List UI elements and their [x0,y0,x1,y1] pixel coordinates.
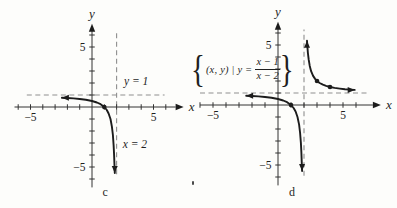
marked-point [315,79,320,84]
open-brace: { [191,50,205,87]
fraction: x − 1 x − 2 [255,56,279,81]
x-axis-arrow [176,104,184,110]
y-axis-arrow [89,24,95,32]
asymptote-annotation: y = 1 [123,75,148,88]
fraction-denominator: x − 2 [255,70,279,82]
y-axis-arrow [275,22,281,30]
x-tick-label: 5 [340,109,346,121]
set-condition-text: (x, y) | y = [206,64,252,75]
y-axis-label: y [273,4,281,19]
curve-right-branch [307,41,355,90]
curve-right-branch-start-arrow [304,41,310,48]
marked-point [102,105,107,110]
x-tick-label: −5 [207,109,219,121]
rational-function-graphs: −555−5xyy = 1x = 2c−555−5xyd [0,0,397,208]
stray-ink-mark [192,181,194,185]
graph-caption: d [289,185,295,199]
graph-c: −555−5xyy = 1x = 2c [15,6,195,199]
curve-left-branch-start-arrow [62,95,69,101]
curve-left-branch [62,98,115,173]
y-tick-label: −5 [73,161,85,173]
curve-left-branch [246,96,302,171]
figure-canvas: −555−5xyy = 1x = 2c−555−5xyd { (x, y) | … [0,0,397,208]
y-tick-label: −5 [259,159,271,171]
marked-point [289,103,294,108]
close-brace: } [280,50,294,87]
y-tick-label: 5 [80,41,86,53]
x-tick-label: −5 [24,111,36,123]
x-axis-label: x [385,97,392,112]
x-axis-arrow [373,102,381,108]
curve-right-branch-end-arrow [348,87,355,93]
curve-left-branch-end-arrow [299,164,305,171]
graph-d: −555−5xyd [200,4,392,199]
asymptote-annotation: x = 2 [122,138,148,150]
y-axis-label: y [87,6,95,21]
set-notation-label: { (x, y) | y = x − 1 x − 2 } [191,47,294,91]
x-axis-label: x [188,99,195,114]
fraction-numerator: x − 1 [255,56,279,69]
curve-left-branch-start-arrow [246,93,253,99]
x-tick-label: 5 [151,111,157,123]
graph-caption: c [102,185,107,199]
marked-point [328,85,333,90]
